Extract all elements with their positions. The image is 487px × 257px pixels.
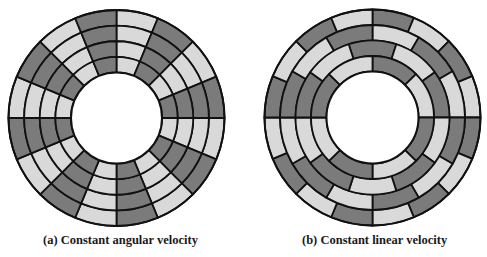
spindle-hole [327,72,419,164]
spindle-hole [71,73,162,164]
caption-constant-angular-velocity: (a) Constant angular velocity [43,233,198,248]
disk-layout-figure [0,0,487,257]
caption-constant-linear-velocity: (b) Constant linear velocity [302,233,447,248]
constant-angular-velocity-disk [9,10,225,226]
constant-linear-velocity-disk [265,10,481,226]
